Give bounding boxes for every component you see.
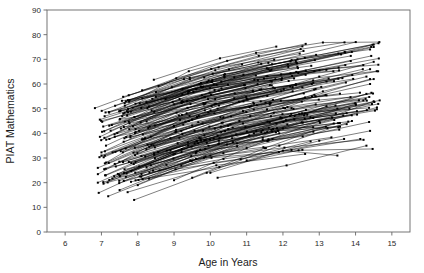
data-point-marker [373,46,375,48]
data-point-marker [303,114,305,116]
data-point-marker [222,116,224,118]
data-point-marker [105,139,107,141]
data-point-marker [137,179,139,181]
data-point-marker [218,104,220,106]
data-point-marker [210,94,212,96]
data-point-marker [358,99,360,101]
data-point-marker [124,105,126,107]
data-point-marker [378,57,380,59]
data-point-marker [97,173,99,175]
x-tick-label: 12 [278,239,287,248]
data-point-marker [218,166,220,168]
data-point-marker [165,98,167,100]
data-point-marker [288,80,290,82]
data-point-marker [346,123,348,125]
data-point-marker [305,109,307,111]
data-point-marker [363,139,365,141]
data-point-marker [305,43,307,45]
data-point-marker [371,103,373,105]
x-tick-label: 8 [136,239,141,248]
data-point-marker [368,121,370,123]
data-point-marker [281,79,283,81]
data-point-marker [301,101,303,103]
x-tick-label: 6 [63,239,68,248]
data-point-marker [182,124,184,126]
data-point-marker [179,98,181,100]
data-point-marker [215,103,217,105]
data-point-marker [280,100,282,102]
data-point-marker [362,64,364,66]
data-point-marker [322,90,324,92]
data-point-marker [269,84,271,86]
data-point-marker [325,126,327,128]
y-tick-label: 60 [32,80,41,89]
data-point-marker [339,126,341,128]
data-point-marker [101,131,103,133]
data-point-marker [339,122,341,124]
data-point-marker [327,127,329,129]
data-point-marker [147,127,149,129]
data-point-marker [139,102,141,104]
data-point-marker [291,149,293,151]
data-point-marker [376,106,378,108]
data-point-marker [121,100,123,102]
data-point-marker [347,121,349,123]
data-point-marker [276,127,278,129]
data-point-marker [123,126,125,128]
data-point-marker [365,76,367,78]
data-point-marker [269,80,271,82]
x-tick-label: 15 [387,239,396,248]
data-point-marker [377,64,379,66]
data-point-marker [351,120,353,122]
data-point-marker [267,62,269,64]
data-point-marker [181,102,183,104]
data-point-marker [268,140,270,142]
data-point-marker [209,172,211,174]
data-point-marker [320,86,322,88]
data-point-marker [196,150,198,152]
data-point-marker [217,177,219,179]
data-point-marker [214,69,216,71]
data-point-marker [291,59,293,61]
data-point-marker [227,128,229,130]
data-point-marker [336,155,338,157]
data-point-marker [145,148,147,150]
data-point-marker [115,165,117,167]
data-point-marker [275,123,277,125]
x-tick-label: 13 [315,239,324,248]
data-point-marker [312,117,314,119]
x-axis-title: Age in Years [199,256,258,268]
data-point-marker [122,151,124,153]
data-point-marker [175,131,177,133]
data-point-marker [97,167,99,169]
data-point-marker [297,72,299,74]
y-tick-label: 10 [32,203,41,212]
data-point-marker [124,102,126,104]
data-point-marker [298,149,300,151]
data-point-marker [374,110,376,112]
data-point-marker [246,130,248,132]
data-point-marker [181,148,183,150]
data-point-marker [362,99,364,101]
data-point-marker [215,164,217,166]
y-tick-label: 40 [32,129,41,138]
data-point-marker [350,55,352,57]
data-point-marker [104,115,106,117]
data-point-marker [188,70,190,72]
data-point-marker [333,119,335,121]
data-point-marker [262,146,264,148]
data-point-marker [129,135,131,137]
data-point-marker [283,147,285,149]
data-point-marker [379,99,381,101]
data-point-marker [123,137,125,139]
data-point-marker [108,112,110,114]
data-point-marker [213,138,215,140]
y-tick-label: 20 [32,179,41,188]
data-point-marker [310,65,312,67]
data-point-marker [287,66,289,68]
data-point-marker [184,121,186,123]
data-point-marker [378,41,380,43]
data-point-marker [226,60,228,62]
data-point-marker [190,160,192,162]
data-point-marker [140,155,142,157]
